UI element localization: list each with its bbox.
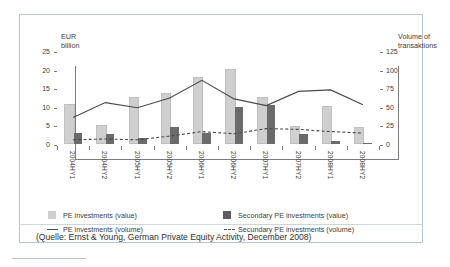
x-axis-label: 2005HY1 [134,151,141,179]
x-axis-label: 2008HY1 [327,151,334,179]
x-tick-mark [121,146,122,150]
x-tick-mark [282,146,283,150]
x-tick-mark [218,146,219,150]
x-tick-mark [347,146,348,150]
page-artifact-line [12,258,86,259]
x-axis-label: 2005HY2 [166,151,173,179]
x-tick-mark [57,146,58,150]
chart-frame: EUR billion Volume of transaktions 25201… [19,14,423,243]
line-pe-volume [73,80,363,117]
x-tick-mark [315,146,316,150]
x-tick-mark [250,146,251,150]
x-axis-label: 2004HY1 [69,151,76,179]
x-tick-mark [89,146,90,150]
source-divider [19,224,423,225]
x-tick-mark [186,146,187,150]
source-caption: (Quelle: Ernst & Young, German Private E… [36,232,311,242]
x-axis-label: 2006HY1 [198,151,205,179]
line-series-svg [20,15,424,244]
x-axis-label: 2004HY2 [101,151,108,179]
x-axis-label: 2008HY2 [359,151,366,179]
x-tick-mark [379,146,380,150]
x-axis-label: 2007HY1 [262,151,269,179]
x-axis-label: 2006HY2 [230,151,237,179]
line-secondary-pe-volume [73,129,363,140]
x-axis-label: 2007HY2 [295,151,302,179]
x-tick-mark [154,146,155,150]
